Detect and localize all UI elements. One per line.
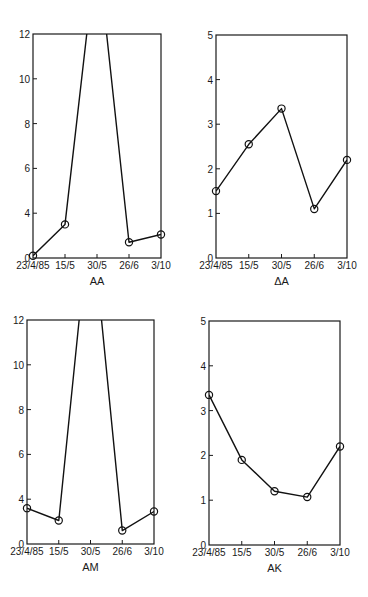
panel-label: AA [90, 275, 105, 287]
y-tick-label: 2 [200, 450, 206, 461]
x-tick-label: 30/5 [265, 547, 285, 558]
y-tick-label: 8 [24, 119, 30, 130]
chart-panel-ak: 01234523/4/8515/530/526/63/10AK [192, 316, 350, 574]
data-point-marker [205, 391, 212, 398]
y-tick-label: 4 [18, 494, 24, 505]
x-tick-label: 3/10 [151, 260, 171, 271]
x-tick-label: 30/5 [81, 546, 101, 557]
panel-label: ΔA [274, 275, 289, 287]
x-tick-label: 15/5 [239, 260, 259, 271]
x-tick-label: 15/5 [55, 260, 75, 271]
data-point-marker [271, 488, 278, 495]
y-tick-label: 6 [18, 449, 24, 460]
y-tick-label: 1 [207, 208, 213, 219]
data-point-marker [343, 156, 350, 163]
plot-frame [27, 320, 154, 544]
x-tick-label: 3/10 [330, 547, 350, 558]
x-tick-label: 23/4/85 [192, 547, 226, 558]
data-point-marker [238, 456, 245, 463]
y-tick-label: 12 [13, 315, 25, 326]
y-tick-label: 4 [207, 75, 213, 86]
data-point-marker [311, 205, 318, 212]
y-tick-label: 6 [24, 163, 30, 174]
x-tick-label: 26/6 [113, 546, 133, 557]
x-tick-label: 26/6 [305, 260, 325, 271]
y-tick-label: 4 [24, 208, 30, 219]
x-tick-label: 15/5 [49, 546, 69, 557]
plot-frame [216, 35, 347, 258]
y-tick-label: 1 [200, 495, 206, 506]
y-tick-label: 3 [207, 119, 213, 130]
y-tick-label: 5 [200, 316, 206, 327]
panel-label: AK [267, 562, 282, 574]
data-point-marker [212, 188, 219, 195]
data-point-marker [61, 221, 68, 228]
data-point-marker [150, 508, 157, 515]
data-line [216, 109, 347, 209]
chart-panel-aa: 0468101223/4/8515/530/526/63/10AA [16, 0, 171, 287]
data-point-marker [278, 105, 285, 112]
y-tick-label: 12 [19, 29, 31, 40]
x-tick-label: 23/4/85 [16, 260, 50, 271]
x-tick-label: 26/6 [298, 547, 318, 558]
data-point-marker [336, 443, 343, 450]
chart-panel-delta-a: 01234523/4/8515/530/526/63/10ΔA [199, 30, 357, 287]
x-tick-label: 23/4/85 [199, 260, 233, 271]
data-point-marker [29, 252, 36, 259]
plot-frame [33, 34, 161, 258]
data-point-marker [304, 493, 311, 500]
y-tick-label: 5 [207, 30, 213, 41]
data-point-marker [119, 527, 126, 534]
panel-label: AM [82, 561, 99, 573]
x-tick-label: 3/10 [144, 546, 164, 557]
y-tick-label: 8 [18, 405, 24, 416]
data-point-marker [157, 231, 164, 238]
figure: 0468101223/4/8515/530/526/63/10AA 012345… [0, 0, 368, 597]
data-point-marker [23, 505, 30, 512]
data-line [209, 395, 340, 497]
data-line [33, 0, 161, 256]
data-point-marker [125, 239, 132, 246]
y-tick-label: 2 [207, 164, 213, 175]
y-tick-label: 3 [200, 406, 206, 417]
data-line [27, 208, 154, 531]
x-tick-label: 3/10 [337, 260, 357, 271]
x-tick-label: 30/5 [272, 260, 292, 271]
x-tick-label: 15/5 [232, 547, 252, 558]
data-point-marker [245, 141, 252, 148]
x-tick-label: 30/5 [87, 260, 107, 271]
y-tick-label: 10 [19, 74, 31, 85]
x-tick-label: 23/4/85 [10, 546, 44, 557]
y-tick-label: 10 [13, 360, 25, 371]
x-tick-label: 26/6 [119, 260, 139, 271]
data-point-marker [55, 517, 62, 524]
y-tick-label: 4 [200, 361, 206, 372]
